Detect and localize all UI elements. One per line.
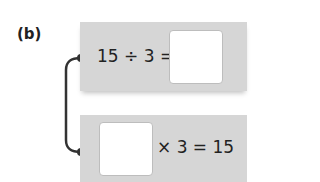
- bottom-equation-card: × 3 = 15: [80, 115, 247, 182]
- top-equation-card: 15 ÷ 3 =: [80, 22, 247, 91]
- division-equation: 15 ÷ 3 =: [97, 46, 174, 66]
- division-answer-box[interactable]: [169, 30, 223, 84]
- multiplication-answer-box[interactable]: [99, 122, 153, 176]
- multiplication-equation: × 3 = 15: [157, 137, 234, 157]
